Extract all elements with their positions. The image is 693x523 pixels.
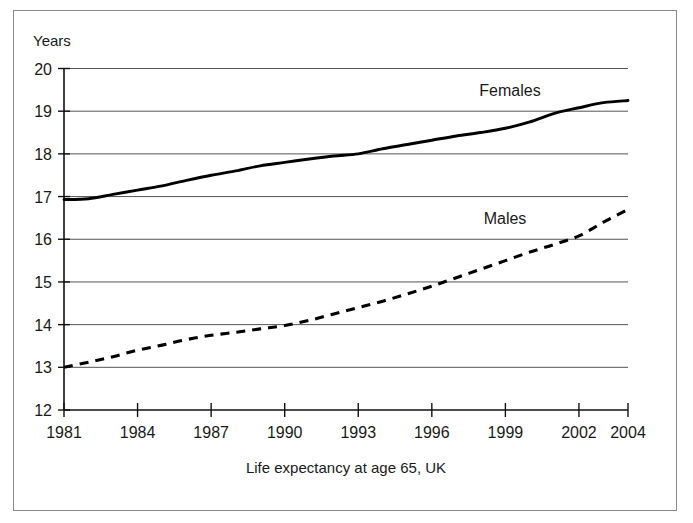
x-tick-label: 1984 — [120, 424, 156, 441]
y-tick-label: 20 — [34, 61, 52, 78]
x-tick-label: 1981 — [46, 424, 82, 441]
y-tick-label: 13 — [34, 359, 52, 376]
series-label-females: Females — [479, 82, 540, 99]
y-tick-label: 19 — [34, 103, 52, 120]
y-tick-label: 15 — [34, 274, 52, 291]
x-tick-label: 1987 — [193, 424, 229, 441]
chart-caption: Life expectancy at age 65, UK — [246, 459, 446, 476]
x-tick-label: 2002 — [561, 424, 597, 441]
x-tick-label: 1990 — [267, 424, 303, 441]
series-line-females — [64, 101, 628, 200]
series-label-males: Males — [484, 210, 527, 227]
x-tick-label: 1993 — [340, 424, 376, 441]
x-axis-ticks: 198119841987199019931996199920022004 — [46, 403, 646, 441]
figure-frame: 121314151617181920 198119841987199019931… — [13, 10, 677, 511]
series-line-males — [64, 209, 628, 367]
gridlines — [64, 69, 628, 368]
x-tick-label: 1996 — [414, 424, 450, 441]
y-tick-label: 16 — [34, 231, 52, 248]
line-chart: 121314151617181920 198119841987199019931… — [14, 11, 678, 512]
y-tick-label: 17 — [34, 189, 52, 206]
y-tick-label: 18 — [34, 146, 52, 163]
y-tick-label: 14 — [34, 317, 52, 334]
y-axis-title: Years — [33, 32, 71, 49]
x-tick-label: 1999 — [488, 424, 524, 441]
y-tick-label: 12 — [34, 402, 52, 419]
x-tick-label: 2004 — [610, 424, 646, 441]
